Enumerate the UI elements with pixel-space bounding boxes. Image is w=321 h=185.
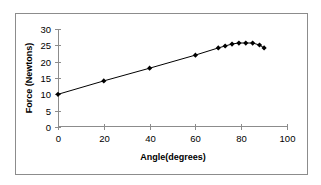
x-axis-label: Angle(degrees) — [140, 152, 206, 162]
x-tick-label: 100 — [280, 133, 296, 144]
x-tick-label: 60 — [190, 133, 201, 144]
y-tick-label: 30 — [40, 24, 51, 35]
y-tick-label: 5 — [46, 106, 51, 117]
y-tick-label: 10 — [40, 89, 51, 100]
y-tick-label: 20 — [40, 57, 51, 68]
chart: 051015202530 020406080100 Angle(degrees)… — [0, 0, 321, 185]
y-tick-label: 25 — [40, 40, 51, 51]
y-tick-label: 15 — [40, 73, 51, 84]
x-tick-label: 0 — [56, 133, 61, 144]
y-axis-label: Force (Newtons) — [24, 43, 34, 114]
x-tick-label: 80 — [236, 133, 247, 144]
x-tick-label: 40 — [145, 133, 156, 144]
x-tick-label: 20 — [99, 133, 110, 144]
y-tick-label: 0 — [46, 122, 51, 133]
